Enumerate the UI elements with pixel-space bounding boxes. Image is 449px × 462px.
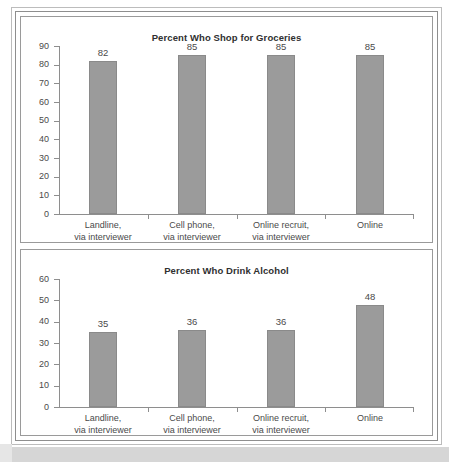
bar-value-label: 85 (350, 42, 390, 52)
category-label-line2: via interviewer (58, 425, 148, 437)
category-label-line2: via interviewer (58, 232, 148, 244)
page-bottom-corner (0, 444, 12, 462)
bar (267, 330, 295, 407)
category-label-line1: Online (325, 220, 415, 232)
category-label-line1: Online recruit, (236, 220, 326, 232)
category-label-line1: Cell phone, (147, 413, 237, 425)
y-axis-tick (54, 407, 59, 408)
y-axis-tick-label: 90 (25, 42, 49, 51)
y-axis-tick (54, 386, 59, 387)
y-axis-tick (54, 343, 59, 344)
y-axis-tick (54, 364, 59, 365)
y-axis-tick-label: 0 (25, 210, 49, 219)
y-axis-tick-label: 0 (25, 403, 49, 412)
y-axis-tick-label: 60 (25, 275, 49, 284)
y-axis-tick (54, 177, 59, 178)
bar (178, 55, 206, 214)
y-axis-tick (54, 139, 59, 140)
y-axis-tick (54, 195, 59, 196)
y-axis-tick (54, 300, 59, 301)
category-label-line1: Landline, (58, 220, 148, 232)
y-axis-tick (54, 279, 59, 280)
y-axis-tick (54, 322, 59, 323)
page-bottom-band (0, 447, 449, 462)
category-label-line1: Landline, (58, 413, 148, 425)
y-axis-tick-label: 60 (25, 98, 49, 107)
x-axis-category-label: Cell phone,via interviewer (147, 413, 237, 436)
bar (356, 305, 384, 407)
bar-value-label: 85 (172, 42, 212, 52)
x-axis-tick (325, 214, 326, 219)
y-axis-tick (54, 214, 59, 215)
bar-value-label: 36 (172, 317, 212, 327)
y-axis-tick (54, 102, 59, 103)
x-axis-tick (237, 214, 238, 219)
y-axis-tick (54, 65, 59, 66)
y-axis-tick (54, 158, 59, 159)
x-axis-category-label: Online (325, 413, 415, 425)
y-axis-tick (54, 46, 59, 47)
x-axis-tick (325, 407, 326, 412)
bar (267, 55, 295, 214)
x-axis-category-label: Cell phone,via interviewer (147, 220, 237, 243)
category-label-line1: Online recruit, (236, 413, 326, 425)
x-axis-category-label: Landline,via interviewer (58, 413, 148, 436)
y-axis-line (59, 46, 60, 214)
bar-value-label: 35 (83, 319, 123, 329)
chart-title-alcohol: Percent Who Drink Alcohol (21, 265, 432, 276)
x-axis-tick (148, 214, 149, 219)
bar-value-label: 85 (261, 42, 301, 52)
y-axis-tick-label: 50 (25, 296, 49, 305)
category-label-line2: via interviewer (147, 232, 237, 244)
x-axis-category-label: Online recruit,via interviewer (236, 220, 326, 243)
bar (89, 332, 117, 407)
y-axis-tick-label: 80 (25, 60, 49, 69)
bar (356, 55, 384, 214)
category-label-line1: Cell phone, (147, 220, 237, 232)
y-axis-tick (54, 83, 59, 84)
y-axis-tick-label: 70 (25, 79, 49, 88)
category-label-line2: via interviewer (236, 425, 326, 437)
y-axis-tick-label: 50 (25, 116, 49, 125)
chart-panel-alcohol: Percent Who Drink Alcohol 01020304050603… (20, 249, 433, 436)
x-axis-tick (237, 407, 238, 412)
chart-panel-groceries: Percent Who Shop for Groceries 010203040… (20, 16, 433, 243)
x-axis-tick (148, 407, 149, 412)
plot-area-alcohol: 010203040506035Landline,via interviewer3… (59, 279, 414, 407)
y-axis-tick-label: 30 (25, 339, 49, 348)
x-axis-tick (413, 407, 414, 412)
category-label-line1: Online (325, 413, 415, 425)
y-axis-tick-label: 20 (25, 172, 49, 181)
x-axis-category-label: Landline,via interviewer (58, 220, 148, 243)
y-axis-tick-label: 40 (25, 135, 49, 144)
category-label-line2: via interviewer (147, 425, 237, 437)
document-page: Percent Who Shop for Groceries 010203040… (0, 0, 449, 462)
x-axis-tick (413, 214, 414, 219)
bar-value-label: 82 (83, 48, 123, 58)
y-axis-tick-label: 10 (25, 381, 49, 390)
y-axis-line (59, 279, 60, 407)
y-axis-tick-label: 10 (25, 191, 49, 200)
x-axis-category-label: Online recruit,via interviewer (236, 413, 326, 436)
y-axis-tick-label: 40 (25, 317, 49, 326)
category-label-line2: via interviewer (236, 232, 326, 244)
x-axis-category-label: Online (325, 220, 415, 232)
bar (89, 61, 117, 214)
bar-value-label: 48 (350, 292, 390, 302)
bar-value-label: 36 (261, 317, 301, 327)
y-axis-tick-label: 30 (25, 154, 49, 163)
plot-area-groceries: 010203040506070809082Landline,via interv… (59, 46, 414, 214)
y-axis-tick-label: 20 (25, 360, 49, 369)
y-axis-tick (54, 121, 59, 122)
bar (178, 330, 206, 407)
